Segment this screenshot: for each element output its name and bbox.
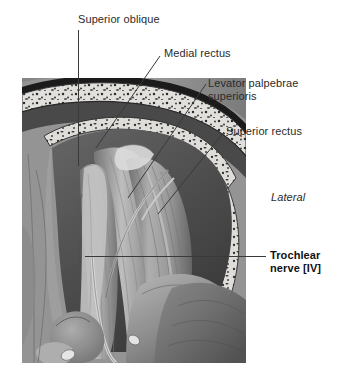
label-medial-rectus: Medial rectus <box>164 47 231 60</box>
figure-canvas: Superior oblique Medial rectus Levator p… <box>0 0 343 383</box>
leader-superior-oblique <box>78 30 79 166</box>
leader-superior-rectus <box>152 126 230 220</box>
label-superior-oblique: Superior oblique <box>78 13 160 26</box>
label-trochlear-nerve: Trochlear nerve [IV] <box>270 249 321 275</box>
label-levator-palpebrae-superioris: Levator palpebrae superioris <box>208 77 298 103</box>
label-superior-rectus: Superior rectus <box>226 125 302 138</box>
label-lateral: Lateral <box>271 191 305 204</box>
leader-trochlear-nerve <box>85 256 266 257</box>
